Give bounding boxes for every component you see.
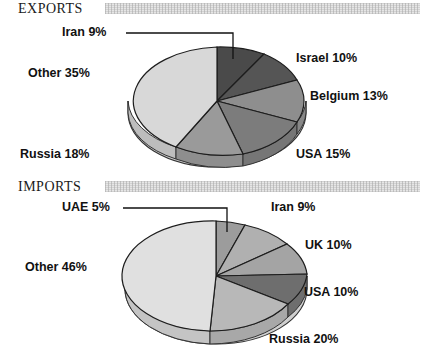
exports-label-usa: USA 15% <box>296 148 350 161</box>
imports-label-usa: USA 10% <box>304 286 358 299</box>
imports-label-russia: Russia 20% <box>269 333 338 346</box>
imports-chart-area: UAE 5% Iran 9% UK 10% USA 10% Russia 20%… <box>0 196 430 356</box>
imports-title: IMPORTS <box>18 179 81 195</box>
exports-label-iran: Iran 9% <box>62 26 106 39</box>
imports-header: IMPORTS <box>0 178 430 198</box>
imports-label-uk: UK 10% <box>305 239 352 252</box>
imports-chart-panel: IMPORTS <box>0 178 430 358</box>
exports-header: EXPORTS <box>0 0 430 20</box>
imports-label-iran: Iran 9% <box>271 201 315 214</box>
exports-header-band <box>105 3 420 14</box>
imports-header-band <box>105 181 420 192</box>
exports-chart-panel: EXPORTS <box>0 0 430 178</box>
exports-label-belgium: Belgium 13% <box>310 90 388 103</box>
exports-pie-top <box>133 47 304 155</box>
exports-title: EXPORTS <box>18 1 83 17</box>
exports-label-russia: Russia 18% <box>20 148 89 161</box>
imports-pie-svg <box>0 196 430 358</box>
exports-label-other: Other 35% <box>28 67 90 80</box>
exports-chart-area: Iran 9% Israel 10% Belgium 13% USA 15% R… <box>0 18 430 178</box>
imports-label-other: Other 46% <box>25 261 87 274</box>
exports-label-israel: Israel 10% <box>296 52 357 65</box>
imports-label-uae: UAE 5% <box>62 201 110 214</box>
